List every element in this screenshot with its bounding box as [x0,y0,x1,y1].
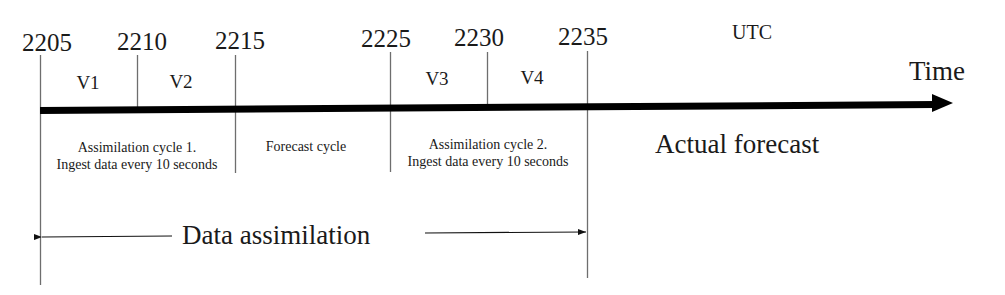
segment-line-1: Assimilation cycle 2. [408,136,569,153]
tick-label-2210: 2210 [117,29,167,54]
segment-line-1: Assimilation cycle 1. [57,139,218,156]
segment-forecast-cycle: Forecast cycle [266,138,346,155]
tick-label-2205: 2205 [22,30,72,55]
volume-label-v2: V2 [169,72,192,91]
timeline-diagram: 2205 2210 2215 2225 2230 2235 UTC Time V… [0,0,1005,295]
span-arrow-left-icon [42,236,172,237]
time-axis-arrow-icon [40,94,953,114]
tick-label-2215: 2215 [215,28,265,53]
segment-line-2: Ingest data every 10 seconds [57,156,218,173]
volume-label-v4: V4 [520,68,543,87]
axis-label: Time [909,58,965,85]
segment-assimilation-cycle-2: Assimilation cycle 2. Ingest data every … [408,136,569,170]
segment-line-1: Forecast cycle [266,138,346,155]
span-arrow-right-icon [425,232,586,233]
volume-label-v1: V1 [76,73,99,92]
tick-label-2235: 2235 [558,24,608,49]
tick-label-2225: 2225 [361,26,411,51]
unit-label: UTC [732,22,772,42]
volume-label-v3: V3 [425,69,448,88]
segment-assimilation-cycle-1: Assimilation cycle 1. Ingest data every … [57,139,218,173]
tick-label-2230: 2230 [454,25,504,50]
segment-line-2: Ingest data every 10 seconds [408,153,569,170]
actual-forecast-label: Actual forecast [655,131,819,158]
data-assimilation-span-label: Data assimilation [182,222,370,249]
